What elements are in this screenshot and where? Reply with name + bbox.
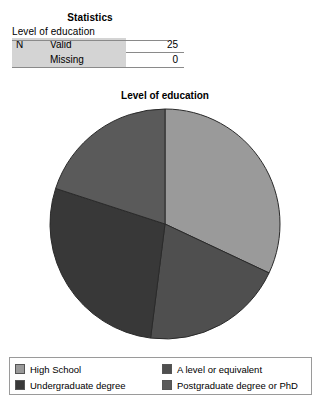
pie-slices bbox=[50, 109, 280, 339]
legend-item-label: Postgraduate degree or PhD bbox=[177, 380, 298, 391]
statistics-block: Statistics Level of education N Valid 25… bbox=[0, 0, 330, 68]
legend-column-left: High School Undergraduate degree bbox=[15, 361, 126, 393]
table-top-rule bbox=[12, 40, 168, 41]
legend-item-label: Undergraduate degree bbox=[30, 380, 126, 391]
table-row: Missing 0 bbox=[12, 53, 184, 68]
row-value: 0 bbox=[126, 53, 184, 68]
legend-item-postgraduate-degree-or-phd[interactable]: Postgraduate degree or PhD bbox=[162, 377, 298, 393]
legend-item-label: High School bbox=[30, 364, 81, 375]
pie-chart-svg bbox=[45, 104, 285, 344]
legend-swatch-icon bbox=[162, 364, 172, 374]
row-stat-label: Missing bbox=[46, 53, 126, 68]
legend-column-right: A level or equivalent Postgraduate degre… bbox=[162, 361, 298, 393]
legend-swatch-icon bbox=[15, 380, 25, 390]
chart-legend: High School Undergraduate degree A level… bbox=[9, 357, 312, 395]
row-n-label bbox=[12, 53, 46, 68]
statistics-title: Statistics bbox=[0, 12, 330, 23]
legend-item-a-level-or-equivalent[interactable]: A level or equivalent bbox=[162, 361, 298, 377]
legend-swatch-icon bbox=[15, 364, 25, 374]
pie-chart bbox=[0, 104, 330, 352]
legend-swatch-icon bbox=[162, 380, 172, 390]
chart-title: Level of education bbox=[0, 90, 330, 101]
legend-item-high-school[interactable]: High School bbox=[15, 361, 126, 377]
statistics-table: N Valid 25 Missing 0 bbox=[12, 38, 184, 68]
statistics-caption: Level of education bbox=[12, 26, 330, 37]
legend-item-label: A level or equivalent bbox=[177, 364, 262, 375]
legend-item-undergraduate-degree[interactable]: Undergraduate degree bbox=[15, 377, 126, 393]
